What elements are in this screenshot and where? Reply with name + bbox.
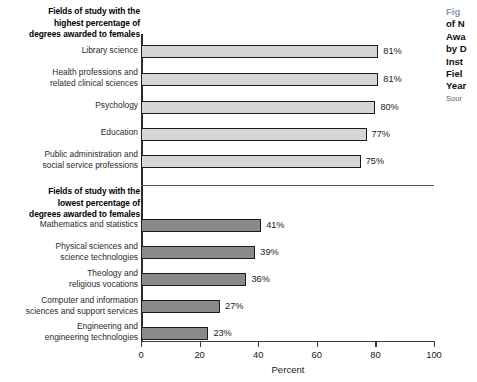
x-axis-tick-label: 0 [138, 349, 143, 360]
bar [141, 73, 378, 86]
section-heading-highest-line2: highest percentage of [12, 18, 140, 30]
x-axis-tick [434, 342, 435, 347]
bar-value-label: 41% [266, 219, 284, 232]
caption-line: Year [446, 80, 477, 92]
category-label-line: Theology and [2, 268, 138, 279]
x-axis-tick [141, 342, 142, 347]
bar-value-label: 39% [260, 246, 278, 259]
x-axis-tick-label: 60 [312, 349, 322, 360]
x-axis-tick [258, 342, 259, 347]
category-label-line: related clinical sciences [2, 78, 138, 89]
caption-line: of N [446, 18, 477, 30]
caption-source-note: Sour [446, 94, 477, 103]
category-label: Mathematics and statistics [2, 219, 138, 230]
section-heading-highest-line1: Fields of study with the [12, 6, 140, 18]
bar-value-label: 80% [380, 101, 398, 114]
category-label-line: religious vocations [2, 279, 138, 290]
category-label-line: sciences and support services [2, 306, 138, 317]
figure-number: Fig [446, 6, 477, 18]
bar-value-label: 75% [366, 155, 384, 168]
category-label-line: Public administration and [2, 149, 138, 160]
figure-chart: Fields of study with the highest percent… [0, 0, 440, 382]
caption-line: by D [446, 43, 477, 55]
caption-line: Inst [446, 56, 477, 68]
category-label-line: Psychology [2, 100, 138, 111]
bar-value-label: 36% [251, 273, 269, 286]
category-label-line: Computer and information [2, 295, 138, 306]
category-label-line: Physical sciences and [2, 241, 138, 252]
bar [141, 101, 375, 114]
caption-line: Awa [446, 31, 477, 43]
bar [141, 246, 255, 259]
section-heading-lowest: Fields of study with the lowest percenta… [12, 186, 140, 221]
x-axis-tick-label: 40 [253, 349, 263, 360]
category-label: Health professions and related clinical … [2, 67, 138, 89]
bar [141, 273, 246, 286]
bar [141, 327, 208, 340]
category-label-line: engineering technologies [2, 332, 138, 343]
bar [141, 219, 261, 232]
x-axis-tick [375, 342, 376, 347]
bar [141, 155, 361, 168]
x-axis-label: Percent [141, 364, 435, 375]
category-label: Education [2, 127, 138, 138]
category-label-line: science technologies [2, 252, 138, 263]
bar-value-label: 27% [225, 300, 243, 313]
caption-line: Fiel [446, 68, 477, 80]
x-axis-tick [317, 342, 318, 347]
category-label-line: Mathematics and statistics [2, 219, 138, 230]
bar [141, 300, 220, 313]
x-axis-tick-label: 80 [370, 349, 380, 360]
bar [141, 45, 378, 58]
x-axis-tick-label: 20 [194, 349, 204, 360]
x-axis-line [141, 341, 435, 342]
bar-value-label: 81% [383, 73, 401, 86]
category-label: Public administration and social service… [2, 149, 138, 171]
x-axis-tick-label: 100 [426, 349, 442, 360]
category-label-line: Education [2, 127, 138, 138]
category-label-line: Library science [2, 45, 138, 56]
category-label-line: Engineering and [2, 321, 138, 332]
category-label-line: social service professions [2, 160, 138, 171]
category-label-line: Health professions and [2, 67, 138, 78]
category-label: Engineering and engineering technologies [2, 321, 138, 343]
category-label: Library science [2, 45, 138, 56]
category-label: Theology and religious vocations [2, 268, 138, 290]
category-label: Psychology [2, 100, 138, 111]
bar-value-label: 23% [213, 327, 231, 340]
section-heading-highest: Fields of study with the highest percent… [12, 6, 140, 41]
bar [141, 128, 367, 141]
bar-value-label: 77% [372, 128, 390, 141]
section-heading-highest-line3: degrees awarded to females [12, 29, 140, 41]
category-label: Computer and information sciences and su… [2, 295, 138, 317]
section-heading-lowest-line2: lowest percentage of [12, 198, 140, 210]
category-label: Physical sciences and science technologi… [2, 241, 138, 263]
bar-value-label: 81% [383, 45, 401, 58]
x-axis-tick [200, 342, 201, 347]
section-heading-lowest-line1: Fields of study with the [12, 186, 140, 198]
group-divider-line [141, 185, 434, 186]
figure-caption: Fig of N Awa by D Inst Fiel Year Sour [446, 6, 477, 103]
